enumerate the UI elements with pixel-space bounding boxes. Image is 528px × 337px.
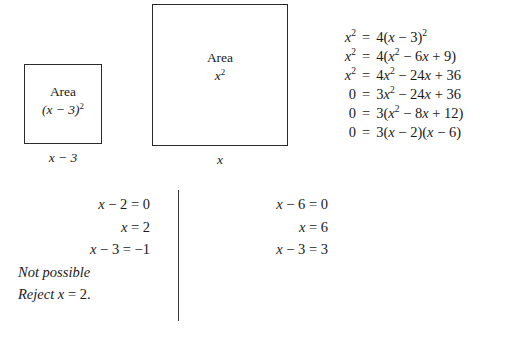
equation-lhs: 0	[330, 123, 356, 142]
derivation-row: x2=4(x2 − 6x + 9)	[330, 47, 463, 66]
equals-sign: =	[356, 28, 376, 47]
large-square-area-expression-text: x2	[215, 68, 225, 83]
case-line: x = 2	[18, 216, 150, 239]
case-line: Reject x = 2.	[18, 283, 150, 306]
case-divider-line	[178, 190, 179, 321]
equation-lhs: 0	[330, 85, 356, 104]
exponent: 2	[80, 100, 84, 110]
equals-sign: =	[356, 123, 376, 142]
case-column-right: x − 6 = 0x = 6x − 3 = 3	[196, 193, 328, 261]
exponent: 2	[221, 66, 225, 76]
derivation-row: 0=3(x − 2)(x − 6)	[330, 123, 463, 142]
equation-rhs: 4x2 − 24x + 36	[376, 66, 461, 85]
large-square-side-label: x	[152, 152, 288, 168]
case-line: x − 6 = 0	[196, 193, 328, 216]
derivation-row: x2=4(x − 3)2	[330, 28, 463, 47]
large-square-figure: Area x2	[152, 4, 288, 146]
equals-sign: =	[356, 66, 376, 85]
equation-lhs: x2	[330, 47, 356, 66]
case-line: x − 2 = 0	[18, 193, 150, 216]
case-column-left: x − 2 = 0x = 2x − 3 = −1Not possibleReje…	[18, 193, 150, 306]
case-line: Not possible	[18, 261, 150, 284]
equation-lhs: 0	[330, 104, 356, 123]
equation-rhs: 4(x − 3)2	[376, 28, 427, 47]
derivation-row: 0=3(x2 − 8x + 12)	[330, 104, 463, 123]
equation-lhs: x2	[330, 28, 356, 47]
equals-sign: =	[356, 104, 376, 123]
small-square-side-label: x − 3	[24, 150, 102, 166]
equation-rhs: 3x2 − 24x + 36	[376, 85, 461, 104]
large-square-area-caption: Area x2	[153, 49, 287, 85]
equation-rhs: 4(x2 − 6x + 9)	[376, 47, 456, 66]
small-square-figure: Area (x − 3)2	[24, 64, 102, 144]
large-square-area-label: Area	[153, 49, 287, 67]
derivation-row: x2=4x2 − 24x + 36	[330, 66, 463, 85]
case-line: x = 6	[196, 216, 328, 239]
equals-sign: =	[356, 47, 376, 66]
equation-lhs: x2	[330, 66, 356, 85]
case-line: x − 3 = −1	[18, 238, 150, 261]
small-square-area-expression-text: (x − 3)2	[42, 102, 84, 117]
equation-rhs: 3(x − 2)(x − 6)	[376, 123, 461, 142]
derivation-row: 0=3x2 − 24x + 36	[330, 85, 463, 104]
equals-sign: =	[356, 85, 376, 104]
equation-rhs: 3(x2 − 8x + 12)	[376, 104, 463, 123]
small-square-area-caption: Area (x − 3)2	[25, 83, 101, 119]
small-square-area-expression: (x − 3)2	[25, 101, 101, 119]
case-line: x − 3 = 3	[196, 238, 328, 261]
large-square-area-expression: x2	[153, 67, 287, 85]
small-square-area-label: Area	[25, 83, 101, 101]
derivation-equation-list: x2=4(x − 3)2x2=4(x2 − 6x + 9)x2=4x2 − 24…	[330, 28, 463, 141]
